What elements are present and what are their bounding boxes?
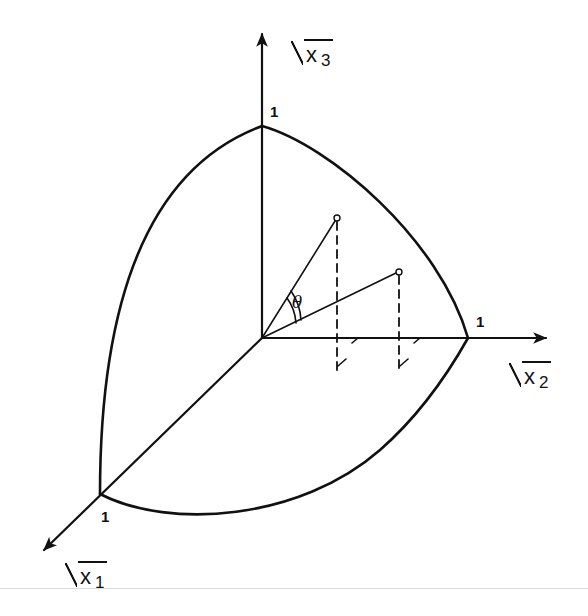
- x3-unit-label: 1: [270, 104, 278, 119]
- x1-axis-label: x1: [65, 566, 107, 588]
- arc-x1-x3: [100, 126, 262, 494]
- projection-p2-diag-b: [400, 359, 408, 366]
- x2-unit-label: 1: [476, 314, 484, 329]
- point-p2: [396, 269, 402, 275]
- projection-p1-diag-b: [338, 359, 346, 366]
- x1-axis: [44, 338, 262, 550]
- x3-axis-label: x3: [291, 44, 333, 66]
- point-p1: [334, 215, 340, 221]
- page-divider: [0, 588, 588, 589]
- x1-unit-label: 1: [101, 509, 109, 524]
- theta-label: θ: [292, 294, 302, 311]
- arc-x1-x2: [100, 338, 468, 514]
- x2-axis-label: x2: [509, 366, 551, 388]
